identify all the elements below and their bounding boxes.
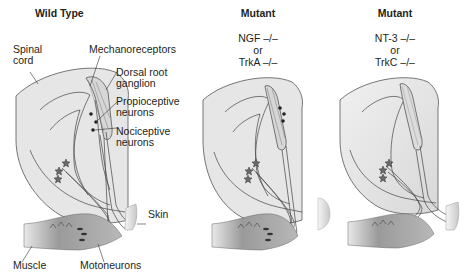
label-dorsal-root-ganglion: Dorsal root ganglion (116, 67, 167, 89)
genotype-trkc: TrkC –/– (359, 57, 431, 68)
panel-title-mutant-1: Mutant (228, 7, 288, 19)
skin-shape (125, 204, 137, 230)
genotype-nt3: NT-3 –/– (359, 33, 431, 44)
panel-title-wild-type: Wild Type (35, 7, 84, 19)
label-spinal-cord: Spinal cord (13, 44, 42, 66)
panel-nt3-trkc-art (340, 78, 459, 248)
genotype-trka: TrkA –/– (222, 57, 294, 68)
panel-title-mutant-2: Mutant (365, 7, 425, 19)
label-nociceptive-neurons: Nociceptive neurons (116, 126, 170, 148)
genotype-or-1: or (222, 45, 294, 56)
label-mechanoreceptors: Mechanoreceptors (89, 44, 176, 55)
label-motoneurons: Motoneurons (80, 260, 141, 271)
label-skin: Skin (148, 209, 168, 220)
spinal-cord-shape (16, 68, 128, 223)
genotype-or-2: or (359, 45, 431, 56)
genotype-ngf: NGF –/– (222, 33, 294, 44)
label-propioceptive-neurons: Propioceptive neurons (116, 96, 180, 118)
label-muscle: Muscle (13, 260, 46, 271)
panel-ngf-trka-art (203, 78, 330, 250)
